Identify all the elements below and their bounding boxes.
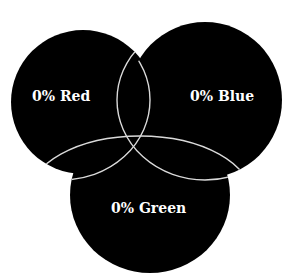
green-circle-fill (70, 117, 230, 273)
blue-label: 0% Blue (190, 88, 254, 104)
green-label: 0% Green (111, 200, 186, 216)
venn-diagram: 0% Red 0% Blue 0% Green (0, 0, 284, 280)
red-label: 0% Red (32, 88, 90, 104)
